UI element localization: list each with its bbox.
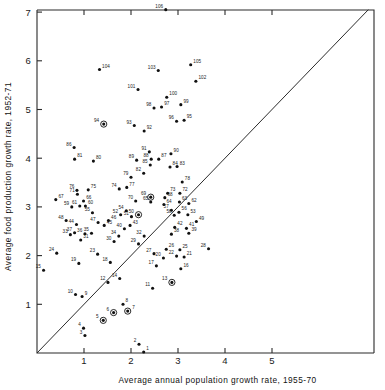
data-point-97: 97 bbox=[160, 101, 170, 108]
plot-canvas: 123451234567 123456789101112131415161718… bbox=[0, 0, 385, 390]
point-label-81: 81 bbox=[77, 153, 83, 158]
point-label-53: 53 bbox=[190, 209, 196, 214]
ticks-group: 123451234567 bbox=[25, 7, 274, 367]
data-point-90: 90 bbox=[169, 148, 179, 155]
point-label-72: 72 bbox=[182, 187, 188, 192]
point-label-12: 12 bbox=[100, 276, 106, 281]
x-axis-title: Average annual population growth rate, 1… bbox=[118, 375, 316, 385]
point-label-34: 34 bbox=[111, 230, 117, 235]
point-marker-dot-52 bbox=[119, 213, 122, 216]
point-label-75: 75 bbox=[91, 184, 97, 189]
point-label-28: 28 bbox=[201, 243, 207, 248]
axes-group bbox=[37, 10, 374, 353]
data-point-56: 56 bbox=[177, 206, 187, 213]
point-label-102: 102 bbox=[198, 75, 206, 80]
point-label-61: 61 bbox=[72, 200, 78, 205]
point-marker-dot-14 bbox=[118, 277, 121, 280]
data-point-22: 22 bbox=[169, 250, 178, 257]
x-tick-label-1: 1 bbox=[81, 355, 87, 366]
point-marker-dot-51 bbox=[130, 215, 133, 218]
point-marker-dot-102 bbox=[194, 80, 197, 83]
data-point-23: 23 bbox=[90, 248, 99, 255]
data-point-77: 77 bbox=[125, 182, 135, 189]
point-label-67: 67 bbox=[58, 194, 64, 199]
data-point-55: 55 bbox=[85, 207, 94, 214]
point-marker-dot-89 bbox=[135, 159, 138, 162]
data-point-70: 70 bbox=[128, 195, 137, 202]
data-point-81: 81 bbox=[73, 153, 83, 160]
point-label-13: 13 bbox=[162, 276, 168, 281]
point-marker-dot-54 bbox=[125, 209, 128, 212]
point-label-97: 97 bbox=[164, 101, 170, 106]
point-label-69: 69 bbox=[141, 191, 147, 196]
data-point-9: 9 bbox=[81, 291, 88, 298]
point-marker-dot-37 bbox=[73, 231, 76, 234]
x-tick-label-2: 2 bbox=[128, 355, 134, 366]
point-label-15: 15 bbox=[36, 264, 42, 269]
point-marker-dot-33 bbox=[69, 233, 72, 236]
point-marker-dot-86 bbox=[73, 146, 76, 149]
data-point-62: 62 bbox=[187, 198, 197, 205]
point-marker-dot-7 bbox=[126, 310, 129, 313]
point-label-29: 29 bbox=[131, 238, 137, 243]
data-point-32: 32 bbox=[136, 230, 145, 237]
point-marker-dot-45 bbox=[103, 224, 106, 227]
point-marker-dot-68 bbox=[163, 196, 166, 199]
point-label-25: 25 bbox=[182, 244, 188, 249]
point-marker-dot-63 bbox=[178, 200, 181, 203]
data-point-102: 102 bbox=[194, 75, 206, 82]
point-marker-dot-69 bbox=[149, 196, 152, 199]
point-label-2: 2 bbox=[134, 338, 137, 343]
point-label-83: 83 bbox=[180, 161, 186, 166]
point-marker-dot-5 bbox=[102, 319, 105, 322]
data-point-95: 95 bbox=[183, 114, 193, 121]
data-point-18: 18 bbox=[103, 257, 112, 264]
point-label-94: 94 bbox=[94, 118, 100, 123]
data-point-8: 8 bbox=[121, 298, 128, 305]
data-point-72: 72 bbox=[178, 187, 188, 194]
point-marker-dot-19 bbox=[77, 262, 80, 265]
y-axis-title: Average food production growth rate, 195… bbox=[3, 82, 13, 271]
point-label-56: 56 bbox=[182, 206, 188, 211]
point-marker-dot-65 bbox=[149, 200, 152, 203]
point-label-26: 26 bbox=[169, 243, 175, 248]
point-label-22: 22 bbox=[169, 250, 175, 255]
y-tick-label-6: 6 bbox=[25, 55, 31, 66]
point-marker-dot-12 bbox=[106, 281, 109, 284]
data-point-19: 19 bbox=[71, 257, 80, 264]
point-label-5: 5 bbox=[96, 314, 99, 319]
data-point-40: 40 bbox=[117, 223, 126, 230]
point-label-24: 24 bbox=[49, 247, 55, 252]
data-point-17: 17 bbox=[149, 260, 158, 267]
data-point-16: 16 bbox=[179, 263, 189, 270]
point-marker-dot-105 bbox=[189, 63, 192, 66]
point-marker-dot-66 bbox=[82, 200, 85, 203]
point-label-77: 77 bbox=[129, 182, 135, 187]
point-label-1: 1 bbox=[146, 346, 149, 351]
point-marker-dot-71 bbox=[76, 193, 79, 196]
point-marker-dot-3 bbox=[83, 334, 86, 337]
point-label-90: 90 bbox=[174, 148, 180, 153]
point-label-30: 30 bbox=[106, 236, 112, 241]
x-tick-label-3: 3 bbox=[175, 355, 181, 366]
point-label-62: 62 bbox=[191, 198, 197, 203]
y-tick-label-4: 4 bbox=[25, 153, 31, 164]
point-marker-dot-35 bbox=[90, 232, 93, 235]
point-marker-dot-36 bbox=[83, 232, 86, 235]
point-marker-dot-32 bbox=[143, 235, 146, 238]
data-point-99: 99 bbox=[179, 99, 189, 106]
point-marker-dot-88 bbox=[150, 158, 153, 161]
x-tick-label-5: 5 bbox=[269, 355, 275, 366]
point-marker-dot-84 bbox=[168, 165, 171, 168]
point-label-78: 78 bbox=[185, 176, 191, 181]
point-marker-dot-24 bbox=[55, 252, 58, 255]
point-marker-dot-79 bbox=[129, 176, 132, 179]
point-marker-dot-73 bbox=[166, 192, 169, 195]
point-label-17: 17 bbox=[149, 260, 155, 265]
point-marker-dot-31 bbox=[79, 238, 82, 241]
point-label-87: 87 bbox=[161, 153, 167, 158]
point-label-59: 59 bbox=[64, 201, 70, 206]
point-label-10: 10 bbox=[68, 289, 74, 294]
data-point-29: 29 bbox=[131, 238, 140, 245]
point-label-95: 95 bbox=[187, 114, 193, 119]
